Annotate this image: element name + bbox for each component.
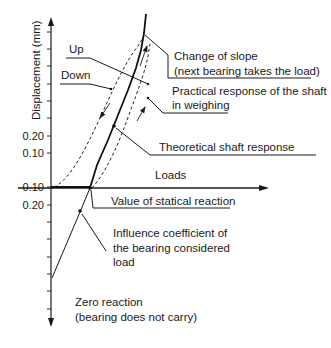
down-leader-dot [110,88,113,91]
influence-marker [78,209,82,213]
x-axis-arrow-icon [259,185,269,191]
influence-line3: load [113,256,135,268]
theoretical-marker [112,124,116,128]
displacement-load-diagram: 0.20 0.10 0.10 0.20 Displacement (mm) Lo… [0,0,331,348]
y-tick-pos-020: 0.20 [23,130,44,142]
down-label: Down [61,69,90,81]
statical-reaction-point [88,186,92,190]
influence-line2: the bearing considered [113,242,230,254]
y-tick-neg-020: 0.20 [23,199,44,211]
statical-reaction-label: Value of statical reaction [111,195,235,207]
theoretical-label: Theoretical shaft response [159,141,295,153]
up-label: Up [69,43,84,55]
zero-reaction-line2: (bearing does not carry) [75,311,197,323]
change-of-slope-line2: (next bearing takes the load) [174,65,320,77]
influence-line [52,188,90,278]
practical-response-line2: in weighing [172,99,230,111]
influence-line1: Influence coefficient of [113,227,228,239]
y-axis: 0.20 0.10 0.10 0.20 Displacement (mm) [23,17,54,327]
up-curve [92,44,150,188]
influence-leader [82,214,106,251]
y-tick-neg-010: 0.10 [23,181,44,193]
y-tick-pos-010: 0.10 [23,147,44,159]
down-direction-arrow-icon [100,103,110,118]
theoretical-response-curve [90,14,146,188]
up-leader-dot [147,83,150,86]
y-axis-label: Displacement (mm) [30,20,42,120]
x-axis-label: Loads [155,169,187,181]
zero-reaction-line1: Zero reaction [75,296,143,308]
change-of-slope-line1: Change of slope [174,50,258,62]
practical-leader-dot [147,97,150,100]
down-leader [60,84,111,89]
practical-response-line1: Practical response of the shaft [172,85,327,97]
y-axis-arrow-down-icon [48,318,54,327]
y-axis-arrow-up-icon [48,17,54,26]
up-direction-arrow-icon [137,107,145,121]
